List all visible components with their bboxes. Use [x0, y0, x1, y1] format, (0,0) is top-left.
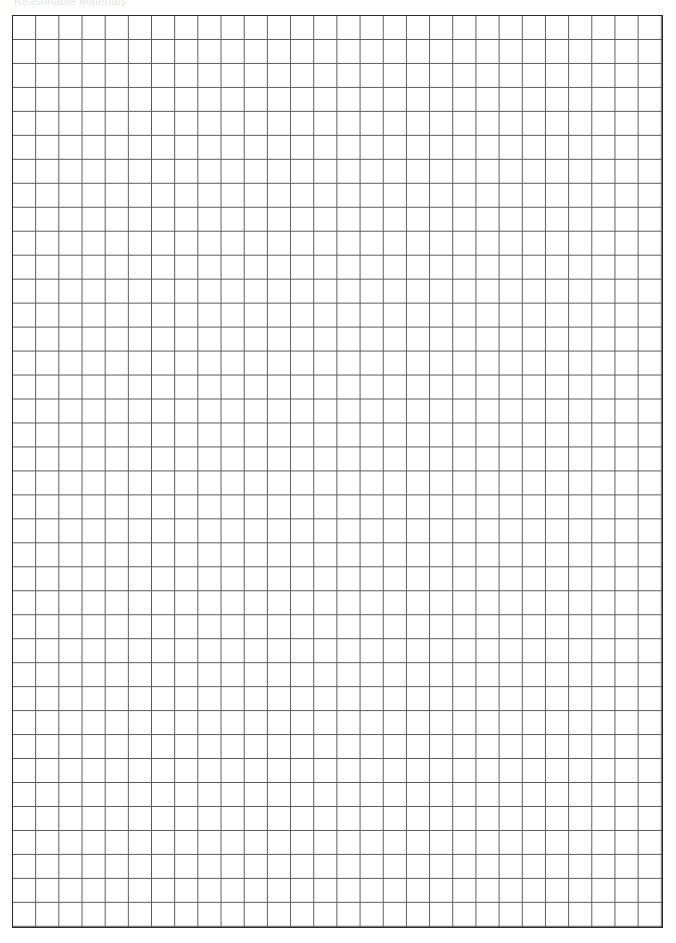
page-header-text: Reasonable Materials — [14, 0, 126, 7]
graph-paper-grid — [12, 15, 663, 928]
